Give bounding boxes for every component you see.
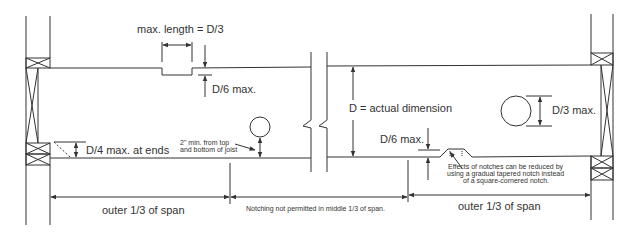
middle-span-label: Notching not permitted in middle 1/3 of … [246, 205, 385, 213]
hole-size-label: D/3 max. [552, 104, 596, 116]
outer-span-right-label: outer 1/3 of span [458, 200, 541, 212]
end-notch-dimension [54, 142, 86, 157]
notch-depth-top-dimension [198, 45, 212, 97]
effects-note-3: of a square-cornered notch. [463, 177, 549, 185]
edge-distance-label-2: and bottom of joist [180, 146, 237, 154]
edge-distance-dimension [235, 117, 270, 157]
end-notch-label: D/4 max. at ends [86, 144, 170, 156]
joist-notching-diagram: max. length = D/3 D/6 max. D = actual di… [0, 0, 636, 236]
right-wall-post [591, 14, 613, 220]
notch-depth-top-label: D/6 max. [212, 83, 256, 95]
max-length-label: max. length = D/3 [137, 23, 224, 35]
max-length-dimension [162, 42, 192, 62]
outer-span-left-label: outer 1/3 of span [102, 204, 185, 216]
hole-dimension [501, 96, 552, 126]
depth-label: D = actual dimension [349, 102, 452, 114]
notch-depth-bottom-label: D/6 max. [380, 133, 424, 145]
left-wall-post [26, 16, 50, 225]
